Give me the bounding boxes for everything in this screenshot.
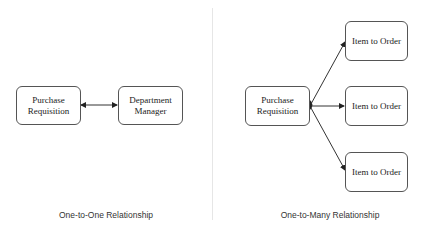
box-label: Item to Order [352, 36, 401, 47]
purchase-requisition-box: Purchase Requisition [16, 86, 81, 125]
one-to-one-caption: One-to-One Relationship [20, 210, 192, 220]
one-to-many-caption: One-to-Many Relationship [245, 210, 415, 220]
item-to-order-box: Item to Order [345, 86, 408, 126]
one-to-many-arrow-3 [311, 108, 345, 170]
purchase-requisition-box: Purchase Requisition [245, 86, 310, 126]
box-label: Purchase Requisition [256, 95, 300, 117]
one-to-many-arrow-1 [311, 42, 345, 104]
divider [212, 8, 213, 220]
box-label: Item to Order [352, 167, 401, 178]
box-label: Item to Order [352, 101, 401, 112]
department-manager-box: Department Manager [118, 86, 183, 125]
box-label: Department Manager [126, 95, 176, 117]
box-label: Purchase Requisition [27, 95, 71, 117]
item-to-order-box: Item to Order [345, 21, 408, 61]
item-to-order-box: Item to Order [345, 152, 408, 192]
